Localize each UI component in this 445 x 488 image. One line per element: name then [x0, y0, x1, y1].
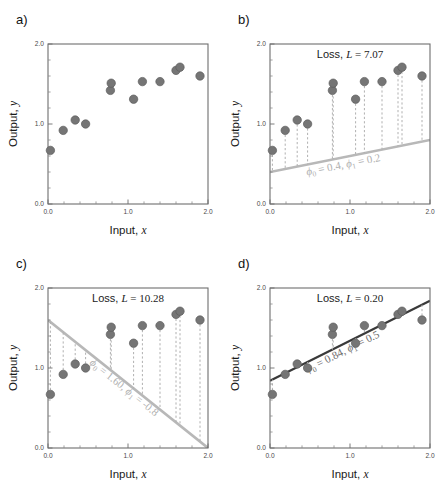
datapoint	[360, 321, 368, 329]
param-label-b: ϕ0 = 0.4, ϕ1 = 0.2	[305, 151, 382, 180]
datapoint	[351, 339, 359, 347]
panel-a: a)0.01.02.00.01.02.0Input, xOutput, y	[0, 0, 222, 244]
ytick-label: 1.0	[257, 120, 266, 127]
datapoint	[156, 321, 164, 329]
datapoint	[71, 360, 79, 368]
datapoint	[293, 360, 301, 368]
ytick-label: 0.0	[257, 200, 266, 207]
xtick-label: 1.0	[123, 452, 132, 459]
xtick-label: 2.0	[203, 208, 212, 215]
panel-letter-b: b)	[238, 12, 250, 27]
datapoint	[81, 364, 89, 372]
datapoint	[176, 63, 184, 71]
datapoint	[196, 316, 204, 324]
panel-letter-a: a)	[16, 12, 28, 27]
datapoint	[329, 79, 337, 87]
datapoint	[398, 307, 406, 315]
ytick-label: 2.0	[35, 284, 44, 291]
panel-c: c)0.01.02.00.01.02.0Input, xOutput, yLos…	[0, 244, 222, 488]
datapoint	[107, 323, 115, 331]
datapoint	[418, 316, 426, 324]
ytick-label: 1.0	[257, 364, 266, 371]
datapoint-group-a	[46, 63, 204, 155]
datapoint	[303, 120, 311, 128]
datapoint	[418, 72, 426, 80]
plot-d: d)0.01.02.00.01.02.0Input, xOutput, yLos…	[222, 244, 444, 488]
ytick-label: 1.0	[35, 120, 44, 127]
param-label-d: ϕ0 = 0.84, ϕ1 = 0.5	[303, 328, 382, 377]
y-axis-title: Output, y	[229, 100, 242, 147]
loss-label-c: Loss, L = 10.28	[92, 292, 164, 304]
datapoint	[107, 79, 115, 87]
ytick-label: 0.0	[257, 444, 266, 451]
plot-b: b)0.01.02.00.01.02.0Input, xOutput, yLos…	[222, 0, 444, 244]
datapoint	[59, 126, 67, 134]
ytick-label: 0.0	[35, 200, 44, 207]
datapoint	[398, 63, 406, 71]
x-axis-title: Input, x	[331, 468, 369, 480]
datapoint	[196, 72, 204, 80]
datapoint	[378, 77, 386, 85]
y-axis-title: Output, y	[7, 100, 20, 147]
datapoint	[138, 77, 146, 85]
ytick-label: 0.0	[35, 444, 44, 451]
xtick-label: 2.0	[203, 452, 212, 459]
datapoint	[268, 390, 276, 398]
xtick-label: 1.0	[345, 208, 354, 215]
xtick-label: 2.0	[425, 208, 434, 215]
plot-c: c)0.01.02.00.01.02.0Input, xOutput, yLos…	[0, 244, 222, 488]
datapoint	[293, 116, 301, 124]
xtick-label: 0.0	[43, 208, 52, 215]
loss-label-d: Loss, L = 0.20	[317, 292, 384, 304]
ytick-label: 2.0	[257, 284, 266, 291]
ytick-label: 2.0	[35, 40, 44, 47]
figure-panel-grid: a)0.01.02.00.01.02.0Input, xOutput, y b)…	[0, 0, 445, 488]
x-axis-title: Input, x	[109, 224, 147, 236]
x-axis-title: Input, x	[331, 224, 369, 236]
datapoint	[129, 95, 137, 103]
xtick-label: 0.0	[265, 452, 274, 459]
y-axis-title: Output, y	[229, 344, 242, 391]
datapoint	[59, 370, 67, 378]
xtick-label: 1.0	[345, 452, 354, 459]
datapoint	[46, 390, 54, 398]
xtick-label: 1.0	[123, 208, 132, 215]
ytick-label: 2.0	[257, 40, 266, 47]
x-axis-title: Input, x	[109, 468, 147, 480]
datapoint	[176, 307, 184, 315]
y-axis-title: Output, y	[7, 344, 20, 391]
datapoint	[378, 321, 386, 329]
loss-label-b: Loss, L = 7.07	[317, 48, 384, 60]
datapoint	[281, 370, 289, 378]
plot-a: a)0.01.02.00.01.02.0Input, xOutput, y	[0, 0, 222, 244]
xtick-label: 2.0	[425, 452, 434, 459]
panel-d: d)0.01.02.00.01.02.0Input, xOutput, yLos…	[222, 244, 444, 488]
xtick-label: 0.0	[43, 452, 52, 459]
panel-letter-d: d)	[238, 256, 250, 271]
xtick-label: 0.0	[265, 208, 274, 215]
datapoint	[360, 77, 368, 85]
datapoint	[303, 364, 311, 372]
datapoint	[46, 146, 54, 154]
datapoint	[138, 321, 146, 329]
datapoint	[71, 116, 79, 124]
datapoint	[281, 126, 289, 134]
datapoint	[81, 120, 89, 128]
ytick-label: 1.0	[35, 364, 44, 371]
datapoint	[329, 323, 337, 331]
datapoint	[268, 146, 276, 154]
datapoint	[351, 95, 359, 103]
panel-b: b)0.01.02.00.01.02.0Input, xOutput, yLos…	[222, 0, 444, 244]
param-label-c: ϕ0 = 1.60, ϕ1 = -0.8	[86, 356, 161, 420]
datapoint	[129, 339, 137, 347]
panel-letter-c: c)	[16, 256, 27, 271]
datapoint	[156, 77, 164, 85]
